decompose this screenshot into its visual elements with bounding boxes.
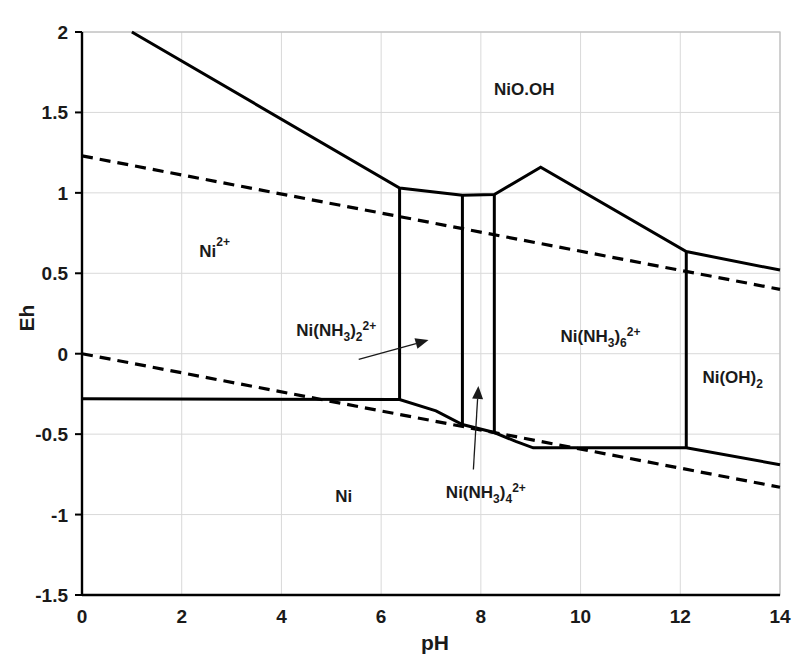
label-part: Ni(NH: [561, 327, 608, 346]
y-tick-label: 0: [57, 344, 68, 365]
label-part: Ni(NH: [446, 483, 493, 502]
x-tick-label: 8: [476, 606, 487, 627]
label-part: 2+: [216, 235, 230, 249]
x-axis-title: pH: [421, 631, 449, 654]
label-part: 2: [756, 377, 763, 391]
x-tick-label: 14: [769, 606, 791, 627]
label-part: 2+: [627, 325, 641, 339]
region-label-NiO.OH: NiO.OH: [494, 80, 554, 99]
y-tick-label: -1: [51, 505, 68, 526]
label-part: Ni(OH): [702, 368, 756, 387]
label-part: Ni(NH: [296, 321, 343, 340]
x-tick-label: 10: [570, 606, 591, 627]
label-part: Ni: [199, 242, 216, 261]
y-tick-label: 1.5: [42, 102, 69, 123]
y-tick-label: -1.5: [35, 585, 68, 606]
y-tick-label: -0.5: [35, 424, 68, 445]
label-part: 2+: [512, 481, 526, 495]
x-tick-label: 2: [176, 606, 187, 627]
y-tick-label: 1: [57, 183, 68, 204]
label-part: NiO.OH: [494, 80, 554, 99]
x-tick-label: 6: [376, 606, 387, 627]
y-tick-label: 2: [57, 22, 68, 43]
label-part: 2+: [363, 319, 377, 333]
label-part: Ni: [335, 487, 352, 506]
pourbaix-diagram-nickel-ammonia: NiO.OHNi2+NiNi(NH3)22+Ni(NH3)42+Ni(NH3)6…: [0, 0, 802, 660]
x-tick-label: 12: [670, 606, 691, 627]
y-tick-label: 0.5: [42, 263, 69, 284]
x-tick-label: 4: [276, 606, 287, 627]
x-tick-label: 0: [77, 606, 88, 627]
y-axis-title: Eh: [15, 305, 38, 332]
region-label-Ni: Ni: [335, 487, 352, 506]
